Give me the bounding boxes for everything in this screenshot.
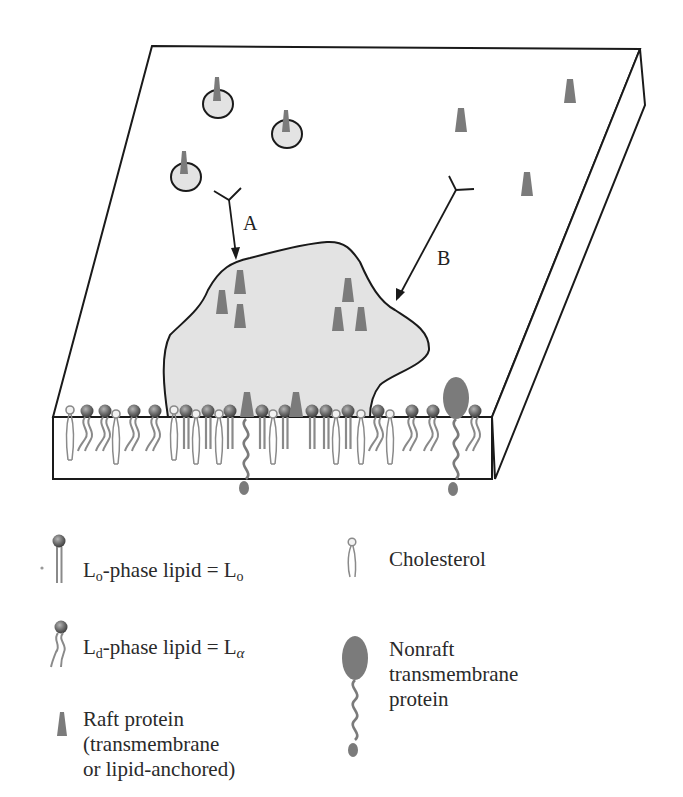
nonraft-line3: protein (389, 687, 518, 712)
lipid-raft-diagram: A B (0, 0, 683, 797)
lo-lipid-icon (53, 535, 66, 584)
raft-protein-icon (57, 712, 67, 736)
lo-prefix: L (83, 558, 96, 582)
raft-protein-line1: Raft protein (83, 707, 235, 732)
ld-sub2: α (237, 645, 245, 661)
ld-sub: d (96, 646, 103, 661)
ld-lipid-icon (51, 621, 68, 668)
legend-lo-lipid: Lo-phase lipid = Lo (83, 558, 244, 585)
legend-cholesterol: Cholesterol (389, 547, 486, 572)
lo-text: -phase lipid = L (103, 558, 237, 582)
legend-ld-lipid: Ld-phase lipid = Lα (83, 635, 244, 662)
legend-nonraft-protein: Nonraft transmembrane protein (389, 637, 518, 712)
nonraft-protein-icon (342, 636, 368, 757)
nonraft-line1: Nonraft (389, 637, 518, 662)
lo-sub: o (96, 569, 103, 584)
nonraft-protein-icon (443, 377, 469, 419)
cholesterol-icon (348, 538, 356, 577)
ld-prefix: L (83, 635, 96, 659)
arrow-a-label: A (243, 212, 258, 234)
ld-text: -phase lipid = L (103, 635, 237, 659)
cholesterol-text: Cholesterol (389, 547, 486, 571)
nonraft-line2: transmembrane (389, 662, 518, 687)
raft-protein-line2: (transmembrane (83, 732, 235, 757)
raft-protein-line3: or lipid-anchored) (83, 757, 235, 782)
arrow-b-label: B (437, 247, 450, 269)
legend-raft-protein: Raft protein (transmembrane or lipid-anc… (83, 707, 235, 782)
lo-sub2: o (237, 569, 244, 584)
